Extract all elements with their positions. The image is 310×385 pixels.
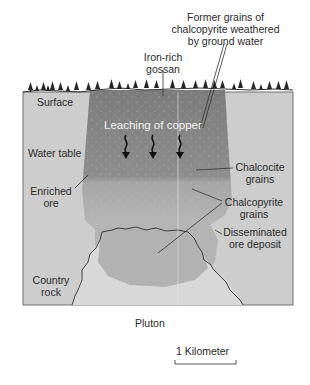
chalcocite-label: Chalcocite grains xyxy=(232,161,288,185)
leaching-label: Leaching of copper xyxy=(104,119,202,131)
water-table-label: Water table xyxy=(28,147,81,159)
former-grains-label: Former grains of chalcopyrite weathered … xyxy=(168,11,283,47)
gossan-label: Iron-rich gossan xyxy=(138,51,188,75)
scale-label: 1 Kilometer xyxy=(176,345,229,357)
chalcopyrite-label: Chalcopyrite grains xyxy=(222,196,286,220)
disseminated-label: Disseminated ore deposit xyxy=(222,226,288,250)
enriched-ore-label: Enriched ore xyxy=(28,185,74,209)
scale-bar xyxy=(175,360,236,364)
ore-deposit-diagram: Former grains of chalcopyrite weathered … xyxy=(0,0,310,385)
surface-label: Surface xyxy=(37,96,73,108)
pluton-label: Pluton xyxy=(135,317,165,329)
country-rock-label: Country rock xyxy=(30,274,72,298)
